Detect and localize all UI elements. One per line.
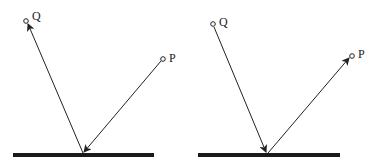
label-p: P (169, 51, 176, 65)
point-q (24, 19, 29, 24)
reflecting-surface (13, 153, 154, 157)
label-q: Q (32, 9, 41, 23)
reflected-ray (268, 58, 349, 153)
point-q (211, 22, 216, 27)
incident-ray (84, 61, 161, 152)
reflection-diagrams: Q P Q P (0, 0, 381, 164)
left-diagram: Q P (13, 9, 176, 157)
point-p (161, 57, 166, 62)
reflected-ray (28, 24, 83, 153)
label-p: P (358, 47, 365, 61)
right-diagram: Q P (198, 15, 365, 157)
label-q: Q (219, 15, 228, 29)
reflecting-surface (198, 153, 340, 157)
point-p (350, 54, 355, 59)
incident-ray (214, 27, 266, 152)
